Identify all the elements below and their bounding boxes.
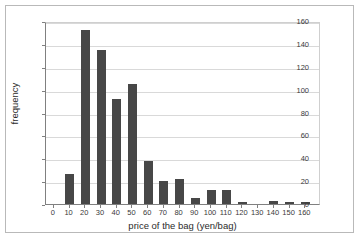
x-axis-tick-mark [226,205,227,208]
x-axis-tick-mark [100,205,101,208]
y-axis-tick-mark [42,114,45,115]
x-axis-tick-mark [69,205,70,208]
x-axis-tick-mark [273,205,274,208]
histogram-bar [144,161,153,204]
histogram-bar [128,84,137,204]
histogram-bar [191,198,200,204]
x-axis-tick-mark [116,205,117,208]
x-axis-tick-label: 160 [291,208,317,217]
y-axis-tick-label: 20 [287,178,309,186]
y-axis-tick-label: 120 [287,64,309,72]
y-axis-tick-mark [42,159,45,160]
y-axis-title: frequency [9,64,20,144]
histogram-bar [222,190,231,204]
histogram-bar [112,99,121,204]
y-axis-tick-mark [42,45,45,46]
x-axis-tick-mark [289,205,290,208]
histogram-figure: frequency 020406080100120140160 01020304… [0,0,359,247]
histogram-bar [175,179,184,204]
x-axis-tick-mark [257,205,258,208]
x-axis-title: price of the bag (yen/bag) [45,220,320,231]
y-axis-tick-label: 60 [287,132,309,140]
x-axis-tick-mark [179,205,180,208]
y-axis-tick-mark [42,91,45,92]
x-axis-tick-mark [210,205,211,208]
histogram-bar [207,190,216,204]
x-axis-tick-mark [147,205,148,208]
histogram-bar [159,181,168,204]
y-axis-tick-mark [42,22,45,23]
histogram-bar [97,50,106,204]
plot-area [45,22,320,205]
y-axis-tick-label: 160 [287,18,309,26]
histogram-bar [81,30,90,204]
x-axis-tick-mark [84,205,85,208]
histogram-bar [65,174,74,204]
y-axis-tick-mark [42,136,45,137]
x-axis-tick-mark [304,205,305,208]
x-axis-tick-mark [241,205,242,208]
histogram-bar [269,201,278,204]
bar-series [46,23,319,204]
x-axis-tick-mark [163,205,164,208]
y-axis-tick-label: 80 [287,110,309,118]
y-axis-tick-mark [42,205,45,206]
y-axis-tick-mark [42,68,45,69]
x-axis-tick-mark [53,205,54,208]
y-axis-tick-mark [42,182,45,183]
x-axis-tick-mark [131,205,132,208]
x-axis-tick-mark [194,205,195,208]
y-axis-tick-label: 140 [287,41,309,49]
y-axis-tick-label: 100 [287,87,309,95]
histogram-bar [238,202,247,204]
y-axis-tick-label: 40 [287,155,309,163]
